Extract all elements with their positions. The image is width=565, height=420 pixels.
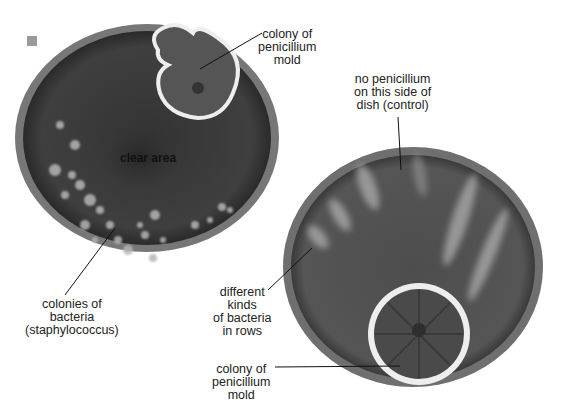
right-petri-dish: [283, 147, 543, 387]
control-label: no penicillium on this side of dish (con…: [354, 73, 431, 112]
left-petri-dish: [15, 24, 279, 262]
clear-area-label: clear area: [120, 152, 176, 165]
left-mold-label: colony of penicillium mold: [258, 28, 316, 67]
bacteria-colonies-label: colonies of bacteria (staphylococcus): [25, 298, 119, 337]
right-mold-label: colony of penicillium mold: [212, 363, 270, 402]
bacteria-rows-label: different kinds of bacteria in rows: [213, 286, 271, 338]
